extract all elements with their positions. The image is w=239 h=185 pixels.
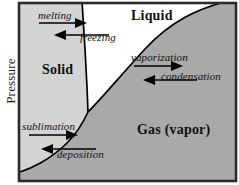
phase-diagram-figure: Pressure	[0, 0, 239, 185]
plot-area	[17, 1, 238, 183]
